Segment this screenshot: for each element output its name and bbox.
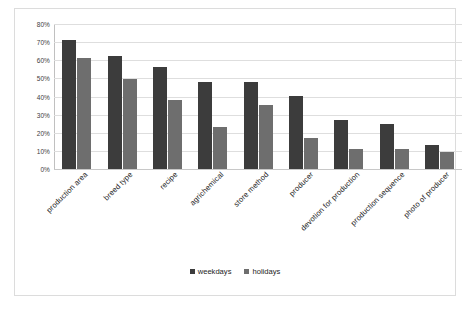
bar-holidays[interactable]: [259, 105, 273, 169]
bar-holidays[interactable]: [213, 127, 227, 169]
legend-swatch-icon: [190, 269, 195, 274]
bar-weekdays[interactable]: [62, 40, 76, 169]
plot-area: 80%70%60%50%40%30%20%10%0%: [54, 24, 462, 169]
y-axis-tick-label: 10%: [37, 147, 50, 154]
chart-frame: 80%70%60%50%40%30%20%10%0% production ar…: [14, 8, 456, 296]
legend-label: weekdays: [198, 267, 232, 276]
legend-swatch-icon: [244, 269, 249, 274]
bar-weekdays[interactable]: [244, 82, 258, 169]
bar-group: [153, 24, 182, 169]
bar-holidays[interactable]: [304, 138, 318, 169]
chart-legend: weekdaysholidays: [15, 267, 455, 276]
x-axis-category-label: recipe: [158, 170, 179, 191]
x-axis-category-label: producer: [288, 170, 316, 198]
y-axis-tick-label: 60%: [37, 57, 50, 64]
bar-group: [334, 24, 363, 169]
x-axis-category-label: store method: [232, 170, 271, 209]
bar-weekdays[interactable]: [334, 120, 348, 169]
x-axis-category-label: production area: [44, 170, 89, 215]
bar-weekdays[interactable]: [108, 56, 122, 169]
legend-item[interactable]: weekdays: [190, 267, 232, 276]
x-axis-category-labels: production areabreed typerecipeagrichemi…: [54, 170, 462, 250]
y-axis-tick-label: 80%: [37, 21, 50, 28]
x-axis-category-label: photo of producer: [402, 170, 452, 220]
y-axis-tick-label: 0%: [40, 166, 50, 173]
bar-group: [62, 24, 91, 169]
bar-holidays[interactable]: [123, 79, 137, 169]
bar-holidays[interactable]: [349, 149, 363, 169]
legend-label: holidays: [252, 267, 280, 276]
bar-group: [289, 24, 318, 169]
bar-weekdays[interactable]: [153, 67, 167, 169]
x-axis-category-label: breed type: [102, 170, 134, 202]
legend-item[interactable]: holidays: [244, 267, 280, 276]
bar-group: [380, 24, 409, 169]
bar-holidays[interactable]: [440, 152, 454, 169]
bar-holidays[interactable]: [168, 100, 182, 169]
y-axis-tick-label: 50%: [37, 75, 50, 82]
y-axis-tick-label: 30%: [37, 111, 50, 118]
bar-weekdays[interactable]: [425, 145, 439, 169]
x-axis-category-label: agrichemical: [188, 170, 225, 207]
bar-group: [108, 24, 137, 169]
y-axis-tick-label: 70%: [37, 39, 50, 46]
bar-group: [198, 24, 227, 169]
bar-group: [425, 24, 454, 169]
y-axis-tick-label: 20%: [37, 129, 50, 136]
y-axis-tick-label: 40%: [37, 93, 50, 100]
bar-weekdays[interactable]: [289, 96, 303, 169]
bar-holidays[interactable]: [77, 58, 91, 169]
bar-weekdays[interactable]: [380, 124, 394, 169]
bar-weekdays[interactable]: [198, 82, 212, 169]
bar-holidays[interactable]: [395, 149, 409, 169]
bar-group: [244, 24, 273, 169]
